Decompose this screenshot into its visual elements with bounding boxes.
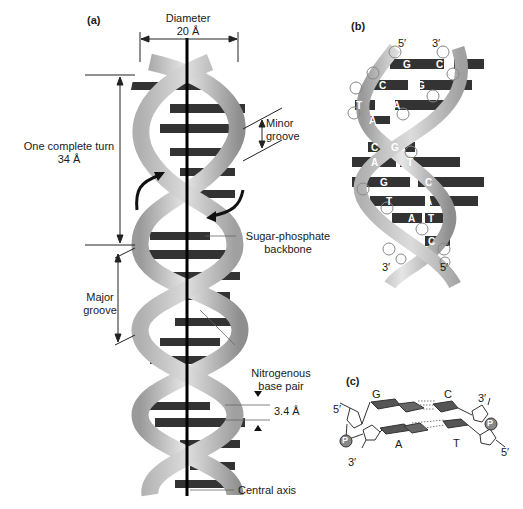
- backbone-label-2: backbone: [238, 243, 338, 256]
- phosphate-label-2: P: [487, 418, 493, 428]
- base-pair-label-2: base pair: [236, 380, 326, 393]
- panel-c-label: (c): [346, 375, 359, 387]
- b-top-right-end: 3′: [432, 37, 440, 50]
- backbone-label-1: Sugar-phosphate: [238, 230, 338, 243]
- turn-value: 34 Å: [14, 153, 124, 166]
- b-base: T: [386, 196, 392, 207]
- central-axis-label: Central axis: [238, 484, 296, 497]
- b-base: A: [393, 100, 400, 111]
- b-base: A: [408, 213, 415, 224]
- b-base: C: [425, 177, 432, 188]
- b-base: G: [417, 80, 425, 91]
- base-pair-label-1: Nitrogenous: [236, 367, 326, 380]
- b-base: T: [356, 100, 362, 111]
- c-bottom-right-end: 5′: [501, 446, 509, 459]
- c-bottom-left-end: 3′: [348, 456, 356, 469]
- b-base: A: [425, 196, 432, 207]
- b-base: C: [379, 80, 386, 91]
- c-bottom-left-base: A: [395, 438, 402, 451]
- c-bottom-right-base: T: [453, 437, 460, 450]
- rise-arrow-up: [254, 425, 262, 431]
- panel-b-graphic: [348, 46, 484, 285]
- c-top-left-end: 5′: [333, 403, 341, 416]
- rise-label: 3.4 Å: [274, 405, 300, 418]
- b-base: C: [371, 142, 378, 153]
- phosphate-label-1: P: [342, 435, 348, 445]
- c-top-right-end: 3′: [478, 392, 486, 405]
- minor-groove-label-2: groove: [266, 130, 300, 143]
- b-base: T: [428, 213, 434, 224]
- b-base: C: [436, 59, 443, 70]
- panel-a-label: (a): [87, 14, 100, 26]
- diameter-title: Diameter: [153, 12, 223, 25]
- b-base: G: [403, 59, 411, 70]
- panel-b-label: (b): [351, 20, 365, 32]
- b-bottom-left-end: 3′: [382, 261, 390, 274]
- b-base: T: [407, 157, 413, 168]
- c-top-right-base: C: [444, 388, 452, 401]
- b-base: A: [371, 157, 378, 168]
- panel-c-graphic: [340, 398, 505, 448]
- c-top-left-base: G: [372, 388, 381, 401]
- turn-title: One complete turn: [14, 140, 124, 153]
- b-base: G: [380, 177, 388, 188]
- b-bottom-right-end: 5′: [440, 261, 448, 274]
- b-top-left-end: 5′: [398, 37, 406, 50]
- diameter-value: 20 Å: [153, 25, 223, 38]
- b-base: A: [369, 115, 376, 126]
- minor-groove-label-1: Minor: [266, 117, 294, 130]
- b-base: C: [428, 236, 435, 247]
- major-groove-label-2: groove: [80, 304, 120, 317]
- b-base: G: [391, 142, 399, 153]
- major-groove-label-1: Major: [80, 291, 120, 304]
